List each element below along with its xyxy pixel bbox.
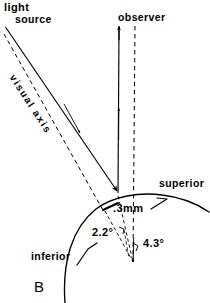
figure-panel: light source observer visual axis superi… — [0, 0, 210, 303]
label-light-source: light source — [4, 2, 52, 25]
inferior-leader-line — [77, 243, 97, 265]
label-superior: superior — [159, 178, 204, 189]
light-source-line1: light — [4, 1, 29, 13]
label-inferior: inferior — [31, 251, 70, 262]
angle-small-marker — [119, 227, 124, 234]
label-offset-distance: .3mm — [113, 203, 143, 215]
superior-leader-line — [151, 198, 167, 209]
label-panel-letter: B — [34, 279, 44, 295]
label-angle-large: 4.3° — [143, 238, 164, 250]
visual-axis-line — [4, 34, 104, 212]
label-angle-small: 2.2° — [92, 227, 113, 239]
light-source-ray — [6, 27, 118, 191]
light-source-line2: source — [15, 14, 52, 25]
optical-axis-line — [133, 26, 135, 262]
visual-axis-arrow — [64, 104, 80, 133]
label-observer: observer — [118, 12, 166, 23]
